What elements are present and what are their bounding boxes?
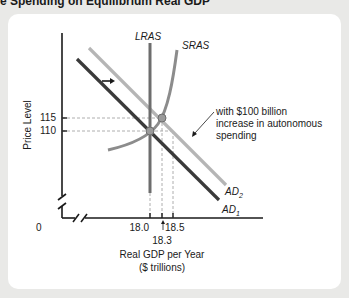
annotation-pointer-icon [192, 112, 214, 137]
y-tick-label-115: 115 [40, 112, 56, 123]
ad1-label: AD1 [221, 204, 240, 217]
ad2-label: AD2 [224, 186, 243, 199]
guide-lines [62, 118, 173, 218]
x-tick-label-18-3: 18.3 [152, 235, 172, 246]
y-axis-label: Price Level [22, 100, 33, 149]
equilibrium-point-new [158, 114, 166, 122]
x-axis-units: ($ trillions) [139, 262, 185, 273]
x-tick-label-18-5: 18.5 [165, 222, 185, 233]
ad-as-chart: LRAS SRAS AD2 AD1 with $100 billion incr… [0, 0, 349, 298]
annotation-line-2: increase in autonomous [216, 118, 322, 129]
y-axis [58, 33, 66, 218]
lras-label: LRAS [135, 31, 161, 42]
x-tick-label-18-0: 18.0 [130, 222, 150, 233]
x-axis-label: Real GDP per Year [120, 249, 206, 260]
sras-label: SRAS [182, 40, 210, 51]
equilibrium-point-initial [146, 127, 154, 135]
annotation-line-3: spending [216, 130, 257, 141]
ad2-curve [89, 48, 226, 185]
y-tick-label-110: 110 [40, 125, 56, 136]
origin-label: 0 [36, 222, 42, 233]
annotation-line-1: with $100 billion [215, 106, 287, 117]
shift-arrow-icon [102, 78, 115, 84]
